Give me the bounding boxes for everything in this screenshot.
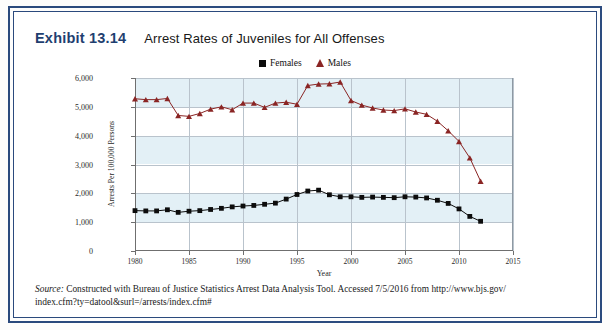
data-point-females (305, 189, 310, 194)
x-axis-tick-label: 1995 (290, 257, 305, 266)
data-point-females (478, 219, 483, 224)
data-point-females (273, 201, 278, 206)
y-axis-tick-label: 2,000 (75, 189, 93, 198)
data-series-layer (135, 78, 513, 251)
x-axis-tick-mark (135, 251, 136, 255)
data-point-females (435, 198, 440, 203)
data-point-females (219, 206, 224, 211)
x-axis-tick-mark (243, 251, 244, 255)
data-point-females (165, 207, 170, 212)
data-point-females (446, 201, 451, 206)
x-axis-tick-label: 2010 (452, 257, 467, 266)
series-line-males (135, 82, 481, 181)
data-point-females (230, 204, 235, 209)
y-axis-tick-label: 4,000 (75, 131, 93, 140)
data-point-males (348, 98, 354, 103)
data-point-males (197, 111, 203, 116)
data-point-females (338, 194, 343, 199)
x-axis-tick-mark (459, 251, 460, 255)
data-point-females (251, 203, 256, 208)
source-note: Source: Constructed with Bureau of Justi… (35, 283, 577, 310)
data-point-males (262, 105, 268, 110)
data-point-males (359, 102, 365, 107)
line-chart: Arrests Per 100,000 Persons Year 01,0002… (13, 11, 597, 318)
data-point-females (133, 208, 138, 213)
source-line-1: Constructed with Bureau of Justice Stati… (64, 284, 506, 294)
x-axis-tick-mark (405, 251, 406, 255)
data-point-females (403, 194, 408, 199)
data-point-females (176, 210, 181, 215)
data-point-females (262, 202, 267, 207)
x-axis-tick-mark (513, 251, 514, 255)
data-point-males (229, 107, 235, 112)
x-axis-tick-label: 2000 (344, 257, 359, 266)
data-point-females (197, 208, 202, 213)
y-axis-tick-label: 3,000 (75, 160, 93, 169)
data-point-females (187, 209, 192, 214)
x-axis-tick-mark (297, 251, 298, 255)
data-point-females (359, 195, 364, 200)
data-point-females (424, 196, 429, 201)
data-point-females (143, 209, 148, 214)
x-axis-tick-label: 1985 (182, 257, 197, 266)
data-point-females (284, 197, 289, 202)
y-axis-tick-label: 5,000 (75, 102, 93, 111)
data-point-females (370, 195, 375, 200)
y-axis-tick-label: 0 (89, 247, 93, 256)
data-point-females (349, 194, 354, 199)
series-line-females (135, 190, 481, 221)
data-point-females (154, 209, 159, 214)
source-line-2: index.cfm?ty=datool&surl=/arrests/index.… (35, 297, 212, 307)
y-axis-label: Arrests Per 100,000 Persons (107, 121, 116, 207)
y-axis-tick-label: 1,000 (75, 218, 93, 227)
plot-area (135, 78, 513, 251)
gridline-vertical (513, 78, 514, 251)
data-point-females (392, 195, 397, 200)
data-point-females (381, 195, 386, 200)
y-axis-tick-label: 6,000 (75, 74, 93, 83)
x-axis-tick-label: 2015 (506, 257, 521, 266)
data-point-females (208, 207, 213, 212)
data-point-males (467, 155, 473, 160)
x-axis-tick-label: 1990 (236, 257, 251, 266)
exhibit-content: Exhibit 13.14 Arrest Rates of Juveniles … (13, 11, 597, 318)
data-point-females (457, 207, 462, 212)
data-point-females (327, 192, 332, 197)
data-point-females (316, 188, 321, 193)
data-point-females (413, 195, 418, 200)
data-point-females (295, 192, 300, 197)
x-axis-tick-label: 2005 (398, 257, 413, 266)
source-label: Source: (35, 284, 64, 294)
x-axis-label: Year (135, 269, 513, 278)
data-point-females (467, 214, 472, 219)
x-axis-tick-mark (189, 251, 190, 255)
data-point-females (241, 204, 246, 209)
exhibit-page: Exhibit 13.14 Arrest Rates of Juveniles … (0, 0, 610, 330)
data-point-males (478, 179, 484, 184)
x-axis-tick-label: 1980 (128, 257, 143, 266)
x-axis-tick-mark (351, 251, 352, 255)
